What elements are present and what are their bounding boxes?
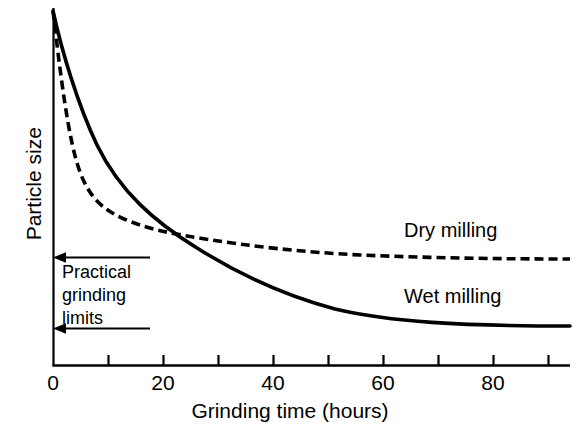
x-axis-ticks	[109, 355, 549, 365]
practical-grinding-limits-annotation: Practical grinding limits	[62, 261, 131, 330]
x-tick-label-20: 20	[140, 371, 186, 395]
x-tick-label-80: 80	[470, 371, 516, 395]
practical-limit-line-1: Practical	[62, 261, 131, 284]
series-label-dry-milling: Dry milling	[404, 219, 497, 241]
series-label-wet-milling: Wet milling	[404, 285, 501, 307]
y-axis-title: Particle size	[22, 84, 46, 284]
x-axis-title: Grinding time (hours)	[53, 399, 527, 423]
x-tick-label-60: 60	[360, 371, 406, 395]
x-tick-label-0: 0	[30, 371, 76, 395]
chart-figure: Particle size 0 20 40 60 80 Grinding tim…	[0, 0, 581, 436]
practical-limit-line-3: limits	[62, 307, 131, 330]
practical-limit-line-2: grinding	[62, 284, 131, 307]
x-tick-label-40: 40	[250, 371, 296, 395]
